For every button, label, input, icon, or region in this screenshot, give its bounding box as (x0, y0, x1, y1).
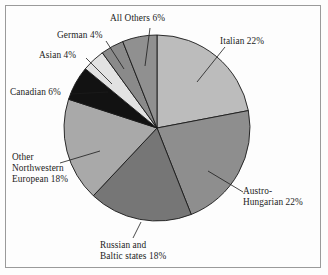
label-russian-baltic: Russian and Baltic states 18% (100, 240, 166, 262)
label-canadian: Canadian 6% (10, 87, 61, 98)
label-asian: Asian 4% (39, 50, 76, 61)
leader-line-russian-baltic (133, 222, 141, 238)
pie-slices (64, 35, 250, 221)
pie-chart-figure: Italian 22% Austro- Hungarian 22% Russia… (0, 0, 328, 275)
label-all-others: All Others 6% (110, 13, 165, 24)
label-austro-hungarian: Austro- Hungarian 22% (243, 186, 303, 208)
label-other-nw-european: Other Northwestern European 18% (12, 152, 68, 186)
label-italian: Italian 22% (220, 36, 264, 47)
label-german: German 4% (57, 30, 103, 41)
pie-chart-canvas (0, 0, 328, 275)
